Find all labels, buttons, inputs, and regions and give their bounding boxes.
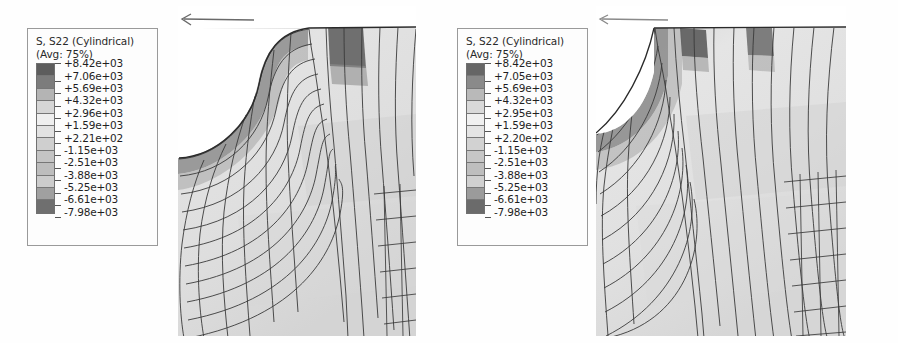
legend-band-2: [37, 89, 54, 101]
legend-band-6: [37, 138, 54, 150]
legend-value-label: +8.42e+03: [494, 57, 553, 69]
legend-band-7: [467, 151, 484, 163]
legend-value-label: -2.51e+03: [494, 156, 548, 168]
legend-tick-icon: [485, 180, 491, 181]
legend-body: +8.42e+03+7.05e+03+5.69e+03+4.32e+03+2.9…: [466, 63, 580, 224]
legend-tick-icon: [485, 168, 491, 169]
legend-band-3: [37, 101, 54, 113]
legend-value-label: +2.21e+02: [64, 132, 123, 144]
legend-band-10: [467, 188, 484, 200]
legend-value-label: -5.25e+03: [64, 181, 118, 193]
legend-value-label: -7.98e+03: [494, 206, 548, 218]
legend-tick-icon: [55, 168, 61, 169]
legend-band-5: [37, 126, 54, 138]
legend-band-1: [467, 76, 484, 88]
legend-band-8: [467, 163, 484, 175]
legend-band-5: [467, 126, 484, 138]
legend-value-label: +2.20e+02: [494, 132, 553, 144]
contour-legend-left: S, S22 (Cylindrical) (Avg: 75%) +8.42e+0…: [27, 28, 158, 246]
legend-value-label: -3.88e+03: [494, 169, 548, 181]
legend-tick-icon: [485, 63, 491, 64]
legend-tick-icon: [55, 93, 61, 94]
legend-tick-icon: [485, 131, 491, 132]
legend-value-row: -7.98e+03: [55, 212, 123, 224]
legend-band-3: [467, 101, 484, 113]
legend-value-label: -6.61e+03: [64, 193, 118, 205]
legend-band-9: [37, 176, 54, 188]
legend-band-10: [37, 188, 54, 200]
legend-value-label: -6.61e+03: [494, 193, 548, 205]
axis-arrow-left-icon: [600, 15, 668, 24]
legend-tick-icon: [485, 205, 491, 206]
legend-colorbar: [466, 63, 485, 214]
legend-value-label: +7.06e+03: [64, 70, 123, 82]
legend-tick-icon: [485, 81, 491, 82]
legend-tick-icon: [485, 118, 491, 119]
legend-band-2: [467, 89, 484, 101]
legend-tick-icon: [485, 193, 491, 194]
legend-body: +8.42e+03+7.06e+03+5.69e+03+4.32e+03+2.9…: [36, 63, 150, 224]
legend-band-1: [37, 76, 54, 88]
top-edge: [654, 27, 846, 28]
legend-band-0: [37, 64, 54, 76]
contour-plot-left-canvas: [178, 6, 416, 336]
legend-labels: +8.42e+03+7.05e+03+5.69e+03+4.32e+03+2.9…: [485, 63, 553, 224]
legend-value-label: +8.42e+03: [64, 57, 123, 69]
legend-value-label: +5.69e+03: [494, 82, 553, 94]
legend-tick-icon: [485, 143, 491, 144]
contour-legend-right: S, S22 (Cylindrical) (Avg: 75%) +8.42e+0…: [457, 28, 588, 246]
legend-band-8: [37, 163, 54, 175]
legend-colorbar: [36, 63, 55, 214]
legend-value-label: +7.05e+03: [494, 70, 553, 82]
legend-tick-icon: [485, 106, 491, 107]
legend-value-label: +1.59e+03: [494, 119, 553, 131]
legend-band-11: [37, 200, 54, 212]
legend-title: S, S22 (Cylindrical): [466, 35, 580, 48]
legend-tick-icon: [485, 155, 491, 156]
legend-tick-icon: [55, 106, 61, 107]
figure-canvas: S, S22 (Cylindrical) (Avg: 75%) +8.42e+0…: [0, 0, 898, 343]
legend-value-label: +4.32e+03: [64, 94, 123, 106]
legend-tick-icon: [485, 217, 491, 218]
legend-band-7: [37, 151, 54, 163]
legend-value-label: -2.51e+03: [64, 156, 118, 168]
legend-labels: +8.42e+03+7.06e+03+5.69e+03+4.32e+03+2.9…: [55, 63, 123, 224]
legend-tick-icon: [55, 63, 61, 64]
legend-band-4: [37, 114, 54, 126]
legend-value-label: -5.25e+03: [494, 181, 548, 193]
legend-tick-icon: [485, 93, 491, 94]
mesh-body-fill: [596, 6, 846, 336]
legend-tick-icon: [55, 131, 61, 132]
legend-value-row: -7.98e+03: [485, 212, 553, 224]
axis-arrow-left-icon: [182, 14, 254, 25]
legend-value-label: +4.32e+03: [494, 94, 553, 106]
legend-band-0: [467, 64, 484, 76]
legend-band-11: [467, 200, 484, 212]
legend-tick-icon: [55, 193, 61, 194]
legend-title: S, S22 (Cylindrical): [36, 35, 150, 48]
legend-band-4: [467, 114, 484, 126]
legend-tick-icon: [55, 180, 61, 181]
contour-plot-left[interactable]: [178, 6, 416, 336]
legend-value-label: -1.15e+03: [494, 144, 548, 156]
legend-band-6: [467, 138, 484, 150]
legend-value-label: -3.88e+03: [64, 169, 118, 181]
legend-tick-icon: [55, 217, 61, 218]
mesh-body-fill: [178, 6, 416, 336]
contour-plot-right[interactable]: [596, 6, 846, 336]
legend-tick-icon: [55, 81, 61, 82]
legend-value-label: -1.15e+03: [64, 144, 118, 156]
legend-value-label: +2.96e+03: [64, 107, 123, 119]
legend-tick-icon: [55, 118, 61, 119]
legend-tick-icon: [55, 155, 61, 156]
legend-value-label: -7.98e+03: [64, 206, 118, 218]
legend-band-9: [467, 176, 484, 188]
top-edge: [309, 27, 416, 28]
legend-tick-icon: [55, 205, 61, 206]
legend-tick-icon: [55, 143, 61, 144]
legend-value-label: +2.95e+03: [494, 107, 553, 119]
legend-value-label: +5.69e+03: [64, 82, 123, 94]
legend-value-label: +1.59e+03: [64, 119, 123, 131]
contour-plot-right-canvas: [596, 6, 846, 336]
